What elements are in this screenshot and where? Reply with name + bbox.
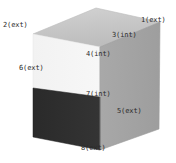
vertex-label-1-ext: 1(ext) — [141, 16, 166, 24]
vertex-label-8-ext: 8(ext) — [81, 144, 106, 152]
vertex-label-7-int: 7(int) — [86, 90, 111, 98]
vertex-label-4-int: 4(int) — [86, 50, 111, 58]
cube-diagram-figure: 1(ext) 2(ext) 3(int) 4(int) 6(ext) 7(int… — [0, 0, 176, 163]
vertex-label-5-ext: 5(ext) — [117, 107, 142, 115]
vertex-label-3-int: 3(int) — [112, 31, 137, 39]
vertex-label-6-ext: 6(ext) — [19, 64, 44, 72]
vertex-label-2-ext: 2(ext) — [3, 21, 28, 29]
